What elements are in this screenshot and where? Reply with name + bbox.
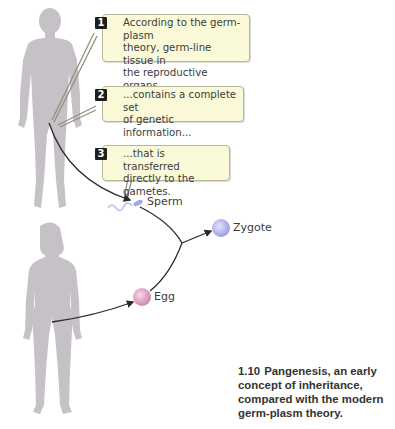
zygote-label: Zygote: [233, 221, 272, 234]
sperm-label: Sperm: [147, 195, 183, 208]
egg-icon: [133, 288, 151, 306]
callout-2: 2 ...contains a complete set of genetic …: [102, 86, 244, 122]
figure-caption: 1.10Pangenesis, an early concept of inhe…: [238, 364, 395, 420]
pangenesis-diagram: 1 According to the germ-plasm theory, ge…: [0, 0, 395, 429]
callout-3: 3 ...that is transferred directly to the…: [102, 145, 230, 181]
callout-1: 1 According to the germ-plasm theory, ge…: [102, 14, 250, 62]
callout-text: ...that is transferred directly to the g…: [123, 148, 224, 198]
callout-number-badge: 2: [95, 89, 107, 101]
male-silhouette-icon: [18, 8, 82, 208]
callout-number-badge: 3: [95, 148, 107, 160]
callout-text: According to the germ-plasm theory, germ…: [123, 17, 244, 93]
egg-label: Egg: [154, 290, 175, 303]
callout-number-badge: 1: [95, 17, 107, 29]
sperm-icon: [108, 199, 144, 211]
callout-text: ...contains a complete set of genetic in…: [123, 89, 238, 139]
zygote-icon: [212, 219, 230, 237]
figure-number: 1.10: [238, 365, 260, 377]
